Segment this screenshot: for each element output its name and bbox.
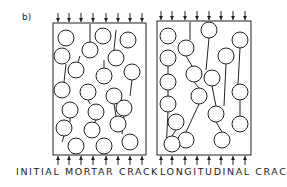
aggregate-particle <box>191 88 207 104</box>
crack-line <box>206 38 209 70</box>
arrow-head-icon <box>79 156 83 160</box>
arrow-head-icon <box>243 156 247 160</box>
arrow-head-icon <box>207 156 211 160</box>
aggregate-particle <box>168 114 184 130</box>
crack-line <box>78 56 80 62</box>
aggregate-particle <box>58 30 74 46</box>
aggregate-particle <box>96 138 112 154</box>
crack-line <box>172 130 176 136</box>
aggregate-particle <box>95 28 111 44</box>
aggregate-particle <box>82 42 98 58</box>
aggregate-particle <box>54 48 70 64</box>
arrow-head-icon <box>140 18 144 22</box>
arrow-head-icon <box>231 156 235 160</box>
crack-line <box>186 104 199 132</box>
aggregate-particle <box>124 64 140 80</box>
crack-diagram <box>0 0 287 187</box>
aggregate-particle <box>214 132 230 148</box>
aggregate-particle <box>232 84 248 100</box>
arrow-head-icon <box>195 16 199 20</box>
arrow-head-icon <box>195 156 199 160</box>
aggregate-particle <box>68 138 84 154</box>
aggregate-particle <box>120 32 136 48</box>
arrow-head-icon <box>128 18 132 22</box>
aggregate-particle <box>178 132 194 148</box>
arrow-head-icon <box>159 156 163 160</box>
aggregate-particle <box>186 66 202 82</box>
arrow-head-icon <box>104 18 108 22</box>
aggregate-particle <box>160 28 176 44</box>
aggregate-particle <box>232 116 248 132</box>
aggregate-particle <box>110 116 126 132</box>
arrow-head-icon <box>170 156 174 160</box>
aggregate-particle <box>160 50 176 66</box>
panel-label-left: INITIAL MORTAR CRACK <box>16 166 159 177</box>
arrow-head-icon <box>207 16 211 20</box>
crack-line <box>130 80 132 96</box>
arrow-head-icon <box>116 156 120 160</box>
arrow-head-icon <box>67 156 71 160</box>
arrow-head-icon <box>243 16 247 20</box>
aggregate-particle <box>160 74 176 90</box>
arrow-head-icon <box>116 18 120 22</box>
arrow-head-icon <box>79 18 83 22</box>
crack-line <box>62 136 64 142</box>
aggregate-particle <box>68 62 84 78</box>
aggregate-particle <box>56 120 72 136</box>
arrow-head-icon <box>159 16 163 20</box>
aggregate-particle <box>88 104 104 120</box>
aggregate-particle <box>208 106 224 122</box>
aggregate-particle <box>62 102 78 118</box>
aggregate-particle <box>84 122 100 138</box>
arrow-head-icon <box>219 16 223 20</box>
crack-line <box>186 56 192 66</box>
arrow-head-icon <box>170 16 174 20</box>
aggregate-particle <box>204 70 220 86</box>
aggregate-particle <box>218 48 234 64</box>
arrow-head-icon <box>140 156 144 160</box>
crack-line <box>212 86 216 106</box>
arrow-head-icon <box>219 156 223 160</box>
aggregate-particle <box>116 100 132 116</box>
aggregate-particle <box>232 32 248 48</box>
crack-line <box>216 122 222 132</box>
crack-line <box>194 82 199 88</box>
aggregate-particle <box>201 22 217 38</box>
arrow-head-icon <box>183 16 187 20</box>
crack-line <box>88 100 90 104</box>
aggregate-particle <box>160 96 176 112</box>
panel-label-right: LONGITUDINAL CRACKS <box>160 166 287 177</box>
aggregate-particle <box>54 82 70 98</box>
crack-line <box>114 104 116 116</box>
aggregate-particle <box>80 84 96 100</box>
arrow-head-icon <box>231 16 235 20</box>
aggregate-particle <box>164 136 180 152</box>
arrow-head-icon <box>183 156 187 160</box>
aggregate-particle <box>178 40 194 56</box>
arrow-head-icon <box>67 18 71 22</box>
arrow-head-icon <box>128 156 132 160</box>
arrow-head-icon <box>104 156 108 160</box>
arrow-head-icon <box>91 18 95 22</box>
arrow-head-icon <box>91 156 95 160</box>
aggregate-particle <box>96 68 112 84</box>
crack-line <box>224 64 226 106</box>
crack-line <box>238 48 240 84</box>
arrow-head-icon <box>56 156 60 160</box>
arrow-head-icon <box>56 18 60 22</box>
aggregate-particle <box>108 50 124 66</box>
aggregate-particle <box>122 134 138 150</box>
crack-line <box>64 64 66 82</box>
crack-line <box>114 30 116 50</box>
